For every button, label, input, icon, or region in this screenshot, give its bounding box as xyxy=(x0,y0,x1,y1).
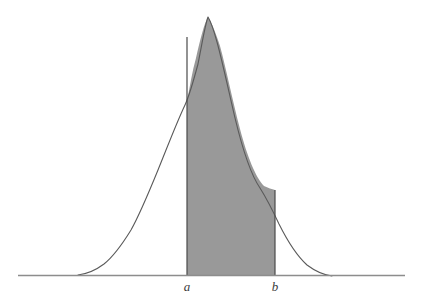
shaded-area-between-a-and-b xyxy=(187,17,275,275)
tick-label-b: b xyxy=(272,279,279,294)
tick-label-a: a xyxy=(184,279,191,294)
normal-curve-figure: a b xyxy=(0,0,423,304)
normal-curve-plot: a b xyxy=(0,0,423,304)
